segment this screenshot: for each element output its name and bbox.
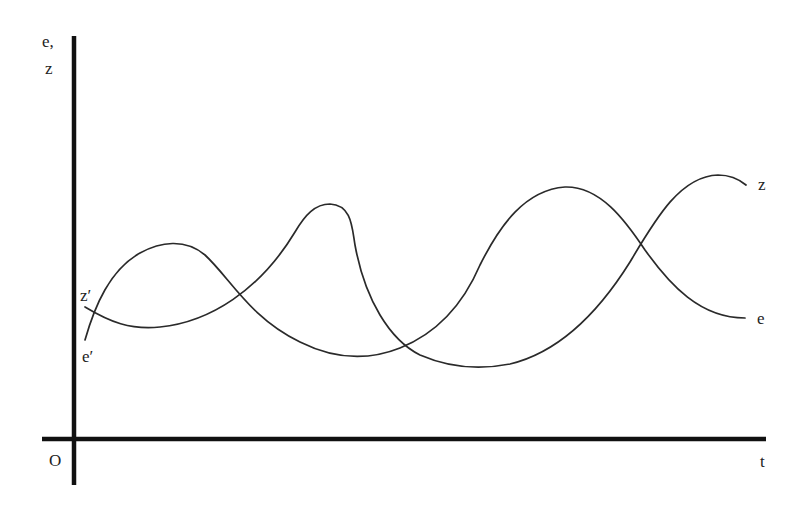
- origin-label: O: [49, 452, 61, 469]
- z-start-label: z′: [80, 287, 91, 304]
- curve-e: [85, 187, 745, 356]
- y-axis-label-z: z: [45, 60, 53, 77]
- y-axis-label-e: e,: [42, 33, 54, 50]
- e-end-label: e: [757, 310, 765, 327]
- z-end-label: z: [758, 176, 766, 193]
- diagram-svg: [0, 0, 806, 506]
- diagram-canvas: e, z O t z′ e′ z e: [0, 0, 806, 506]
- x-axis-label-t: t: [760, 453, 765, 470]
- e-start-label: e′: [82, 348, 93, 365]
- curve-z: [85, 175, 746, 367]
